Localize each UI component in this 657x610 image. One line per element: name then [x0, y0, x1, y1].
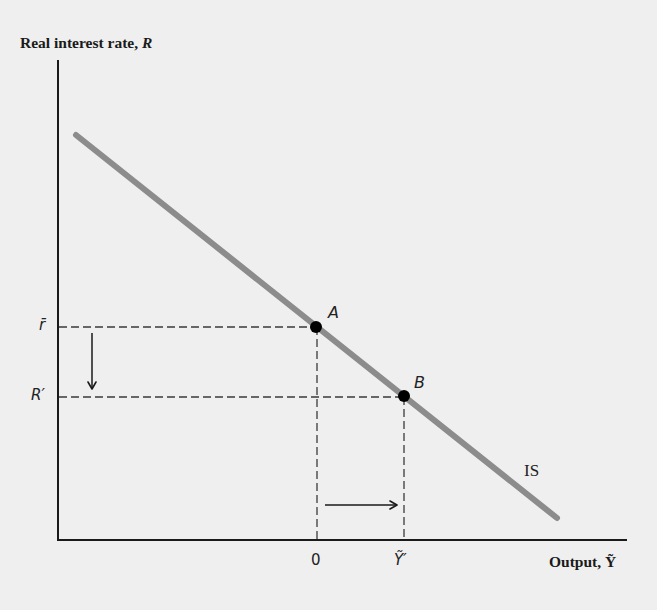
point-b-label: B: [414, 375, 425, 391]
y-axis-title-var: R: [142, 34, 152, 51]
point-a-marker: [310, 321, 322, 333]
y-axis-title-text: Real interest rate,: [20, 34, 142, 51]
y-tick-r-prime: R′: [31, 388, 45, 403]
y-axis-title: Real interest rate, R: [20, 35, 152, 51]
x-tick-y-tilde-prime: Ỹ′: [394, 553, 407, 568]
point-b-marker: [398, 390, 410, 402]
x-axis-title-var: Ỹ: [605, 553, 616, 570]
is-curve-chart: Real interest rate, R Output, Ỹ r̄ R′ 0 …: [0, 0, 657, 610]
x-axis-title-text: Output,: [549, 553, 605, 570]
point-a-label: A: [328, 305, 339, 321]
x-axis-title: Output, Ỹ: [549, 554, 616, 570]
is-curve-label: IS: [524, 462, 539, 479]
x-tick-zero: 0: [311, 553, 321, 568]
y-tick-r-bar: r̄: [39, 318, 45, 333]
